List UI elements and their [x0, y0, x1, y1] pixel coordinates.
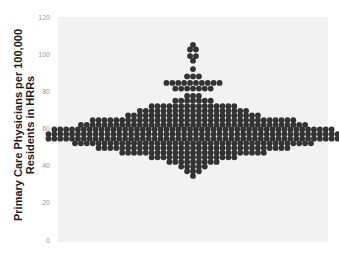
data-point — [190, 58, 196, 64]
data-point — [175, 80, 181, 86]
data-point — [329, 136, 335, 142]
data-point — [317, 136, 323, 142]
data-point — [187, 80, 193, 86]
data-point — [51, 136, 57, 142]
data-point — [243, 150, 249, 156]
data-point — [184, 98, 190, 104]
data-point — [137, 150, 143, 156]
data-point — [125, 150, 131, 156]
data-point — [84, 140, 90, 146]
data-point — [193, 47, 199, 53]
data-point — [302, 140, 308, 146]
data-point — [249, 150, 255, 156]
data-point — [308, 140, 314, 146]
data-point — [113, 145, 119, 151]
data-point — [196, 86, 202, 92]
data-point — [193, 80, 199, 86]
data-point — [196, 168, 202, 174]
data-point — [214, 159, 220, 165]
data-point — [202, 86, 208, 92]
data-point — [167, 159, 173, 165]
data-point — [190, 98, 196, 104]
y-tick-label: 60 — [42, 125, 50, 132]
data-point — [220, 154, 226, 160]
data-point — [208, 159, 214, 165]
data-point — [46, 136, 52, 142]
data-point — [267, 145, 273, 151]
data-point — [172, 159, 178, 165]
y-tick-label: 20 — [42, 199, 50, 206]
data-point — [119, 150, 125, 156]
data-point — [161, 154, 167, 160]
data-point — [178, 98, 184, 104]
data-point — [96, 145, 102, 151]
data-point — [196, 98, 202, 104]
data-point — [202, 164, 208, 170]
data-point — [164, 80, 170, 86]
chart-plot: 020406080100120 — [0, 0, 339, 254]
data-point — [196, 74, 202, 80]
data-point — [335, 136, 339, 142]
data-point — [296, 140, 302, 146]
data-point — [143, 150, 149, 156]
y-tick-label: 0 — [46, 237, 50, 244]
data-point — [184, 86, 190, 92]
data-point — [273, 145, 279, 151]
data-point — [205, 80, 211, 86]
data-point — [131, 150, 137, 156]
data-point — [202, 98, 208, 104]
data-point — [237, 150, 243, 156]
y-tick-label: 40 — [42, 162, 50, 169]
data-point — [181, 80, 187, 86]
data-point — [190, 86, 196, 92]
data-point — [199, 80, 205, 86]
data-point — [57, 136, 63, 142]
data-point — [187, 47, 193, 53]
y-axis-ticks: 020406080100120 — [38, 14, 50, 244]
data-point — [255, 150, 261, 156]
data-point — [63, 136, 69, 142]
data-point — [90, 140, 96, 146]
data-point — [72, 140, 78, 146]
data-point — [290, 140, 296, 146]
data-point — [208, 86, 214, 92]
data-point — [78, 140, 84, 146]
y-tick-label: 100 — [38, 51, 50, 58]
beeswarm-chart: 020406080100120 Primary Care Physicians … — [0, 0, 339, 254]
y-tick-label: 80 — [42, 88, 50, 95]
data-point — [211, 80, 217, 86]
data-point — [178, 86, 184, 92]
data-point — [155, 154, 161, 160]
data-point — [323, 136, 329, 142]
data-point — [190, 66, 196, 72]
data-point — [149, 154, 155, 160]
data-point — [184, 74, 190, 80]
data-point — [279, 145, 285, 151]
data-point — [184, 168, 190, 174]
data-point — [169, 80, 175, 86]
data-point — [172, 98, 178, 104]
y-tick-label: 120 — [38, 14, 50, 21]
data-point — [226, 154, 232, 160]
data-point — [231, 154, 237, 160]
data-point — [285, 145, 291, 151]
data-point — [172, 86, 178, 92]
data-point — [108, 145, 114, 151]
data-point — [217, 80, 223, 86]
data-point — [190, 173, 196, 179]
data-point — [190, 74, 196, 80]
data-point — [102, 145, 108, 151]
data-point — [208, 98, 214, 104]
y-axis-label: Primary Care Physicians per 100,000 Resi… — [12, 5, 36, 245]
data-point — [178, 164, 184, 170]
data-point — [261, 150, 267, 156]
